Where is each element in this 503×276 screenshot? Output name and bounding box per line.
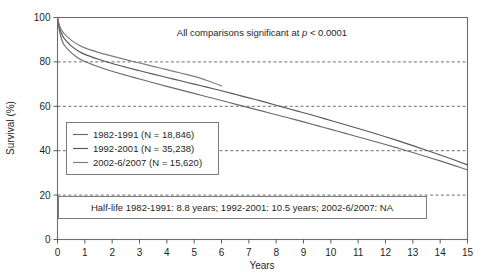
y-tick-group: 020406080100 bbox=[34, 12, 58, 245]
x-tick-label-0: 0 bbox=[55, 247, 61, 258]
survival-chart-figure: 020406080100 0123456789101112131415 Year… bbox=[0, 0, 503, 276]
x-tick-label-11: 11 bbox=[353, 247, 364, 258]
y-tick-label-0: 0 bbox=[45, 234, 51, 245]
x-tick-label-3: 3 bbox=[137, 247, 143, 258]
x-tick-label-2: 2 bbox=[109, 247, 115, 258]
x-tick-label-15: 15 bbox=[462, 247, 474, 258]
y-tick-label-20: 20 bbox=[39, 190, 51, 201]
y-tick-label-40: 40 bbox=[39, 145, 51, 156]
x-tick-label-13: 13 bbox=[407, 247, 419, 258]
x-tick-label-10: 10 bbox=[325, 247, 337, 258]
y-axis-title: Survival (%) bbox=[5, 101, 16, 155]
legend-entry-2: 2002-6/2007 (N = 15,620) bbox=[73, 157, 202, 168]
x-tick-label-12: 12 bbox=[380, 247, 392, 258]
y-tick-label-100: 100 bbox=[34, 12, 51, 23]
x-tick-label-1: 1 bbox=[82, 247, 88, 258]
x-tick-label-4: 4 bbox=[164, 247, 170, 258]
legend-box: 1982-1991 (N = 18,846) 1992-2001 (N = 35… bbox=[67, 123, 219, 175]
x-tick-label-8: 8 bbox=[273, 247, 279, 258]
y-tick-label-60: 60 bbox=[39, 101, 51, 112]
x-tick-label-7: 7 bbox=[246, 247, 252, 258]
significance-prefix: All comparisons significant at bbox=[177, 27, 302, 38]
halflife-annotation-text: Half-life 1982-1991: 8.8 years; 1992-200… bbox=[91, 202, 394, 213]
halflife-annotation-box: Half-life 1982-1991: 8.8 years; 1992-200… bbox=[59, 197, 427, 219]
x-tick-group: 0123456789101112131415 bbox=[55, 240, 474, 258]
x-axis-title: Years bbox=[249, 260, 274, 271]
significance-suffix: < 0.0001 bbox=[307, 27, 347, 38]
x-tick-label-6: 6 bbox=[219, 247, 225, 258]
svg-text:All comparisons significant at: All comparisons significant at p < 0.000… bbox=[177, 27, 347, 38]
y-tick-label-80: 80 bbox=[39, 56, 51, 67]
legend-label-0: 1982-1991 (N = 18,846) bbox=[93, 129, 194, 140]
x-tick-label-9: 9 bbox=[301, 247, 307, 258]
x-tick-label-14: 14 bbox=[435, 247, 447, 258]
legend-label-2: 2002-6/2007 (N = 15,620) bbox=[93, 157, 202, 168]
legend-label-1: 1992-2001 (N = 35,238) bbox=[93, 143, 194, 154]
significance-annotation: All comparisons significant at p < 0.000… bbox=[177, 27, 347, 38]
x-tick-label-5: 5 bbox=[191, 247, 197, 258]
survival-chart-svg: 020406080100 0123456789101112131415 Year… bbox=[0, 0, 503, 276]
